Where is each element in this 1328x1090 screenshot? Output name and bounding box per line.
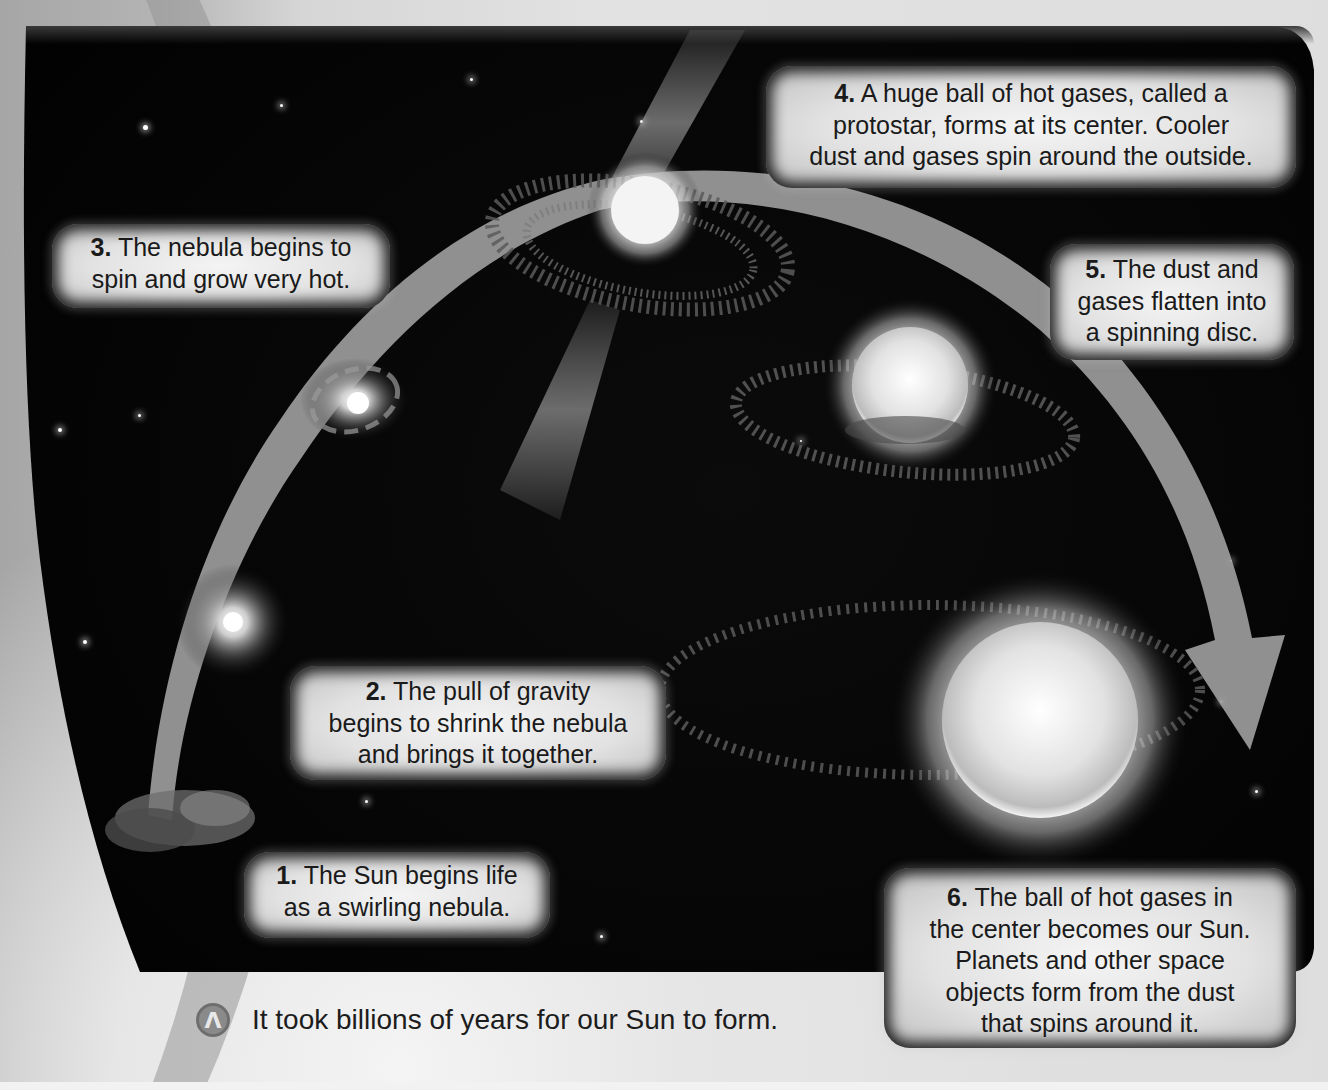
stage-text: and brings it together. — [306, 739, 650, 771]
arrow-up-badge-icon: Λ — [196, 1003, 230, 1037]
stage-6-callout: 6. The ball of hot gases in the center b… — [884, 868, 1296, 1048]
stage-text: Planets and other space — [900, 945, 1280, 977]
stage-number: 6. — [947, 883, 968, 911]
stage-text: dust and gases spin around the outside. — [782, 141, 1280, 173]
stage-1-callout: 1. The Sun begins life as a swirling neb… — [244, 852, 550, 938]
stage-text: spin and grow very hot. — [68, 264, 374, 296]
stage-text: The nebula begins to — [118, 233, 352, 261]
stage-text: The Sun begins life — [304, 861, 518, 889]
stage-text: objects form from the dust — [900, 977, 1280, 1009]
stage-4-callout: 4. A huge ball of hot gases, called a pr… — [766, 66, 1296, 188]
page-bottom-edge — [0, 1082, 1328, 1090]
stage-text: a spinning disc. — [1066, 317, 1278, 349]
stage-text: the center becomes our Sun. — [900, 914, 1280, 946]
stage-number: 4. — [834, 79, 855, 107]
swirling-nebula-cloud — [105, 790, 255, 852]
caption-text: It took billions of years for our Sun to… — [252, 1004, 778, 1036]
stage-text: as a swirling nebula. — [260, 892, 534, 924]
stage-text: The pull of gravity — [393, 677, 590, 705]
stage-5-callout: 5. The dust and gases flatten into a spi… — [1050, 244, 1294, 360]
young-sun-with-dust-ring — [660, 570, 1200, 870]
stage-number: 3. — [91, 233, 112, 261]
figure-caption: Λ It took billions of years for our Sun … — [196, 1000, 778, 1040]
stage-text: The ball of hot gases in — [974, 883, 1233, 911]
stage-number: 1. — [276, 861, 297, 889]
stage-text: protostar, forms at its center. Cooler — [782, 110, 1280, 142]
stage-text: A huge ball of hot gases, called a — [861, 79, 1228, 107]
stage-number: 2. — [366, 677, 387, 705]
protostar-jet-bottom — [500, 300, 620, 520]
stage-2-callout: 2. The pull of gravity begins to shrink … — [290, 666, 666, 780]
stage-text: gases flatten into — [1066, 286, 1278, 318]
star-with-flattened-disc — [730, 297, 1079, 489]
stage-text: begins to shrink the nebula — [306, 708, 650, 740]
stage-3-callout: 3. The nebula begins to spin and grow ve… — [52, 224, 390, 308]
stage-text: that spins around it. — [900, 1008, 1280, 1040]
shrinking-nebula-burst — [175, 564, 291, 680]
stage-number: 5. — [1085, 255, 1106, 283]
stage-text: The dust and — [1113, 255, 1259, 283]
